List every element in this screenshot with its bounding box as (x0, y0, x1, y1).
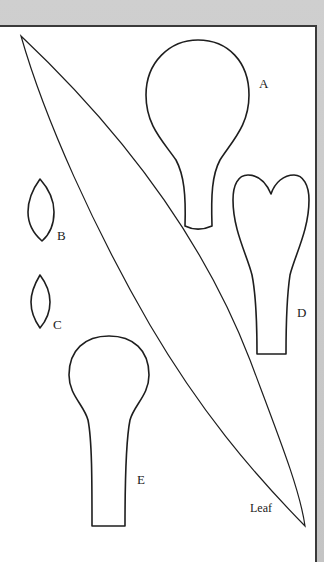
piece-d-outline (233, 175, 309, 354)
label-c: C (53, 318, 62, 331)
piece-e-outline (69, 336, 149, 526)
label-leaf: Leaf (250, 502, 272, 514)
label-e: E (137, 473, 145, 486)
piece-b-outline (28, 179, 54, 241)
leaf-piece (21, 36, 305, 526)
pattern-drawing (0, 0, 324, 562)
label-a: A (259, 77, 268, 90)
label-d: D (297, 306, 306, 319)
piece-c-outline (31, 275, 50, 328)
label-b: B (57, 229, 66, 242)
